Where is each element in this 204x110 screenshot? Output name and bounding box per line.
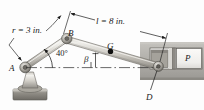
slider-crank-figure: r = 3 in. l = 8 in. B A G β 40° D P [0, 0, 204, 110]
rod-angle-marker [91, 53, 99, 68]
point-a-label: A [9, 64, 15, 73]
pedestal-post [22, 72, 38, 88]
pin-joint-d [153, 61, 163, 71]
crank-radius-label: r = 3 in. [12, 26, 42, 35]
crank-radius-leader [9, 16, 61, 61]
rod-length-label: l = 8 in. [96, 17, 125, 26]
point-g-label: G [107, 42, 114, 51]
crank-angle-label: 40° [56, 49, 68, 58]
point-b-label: B [68, 29, 74, 38]
angle-beta-label: β [84, 55, 88, 64]
point-d-label: D [146, 93, 153, 102]
force-p-label: P [185, 54, 191, 63]
ground-pedestal [13, 72, 47, 100]
